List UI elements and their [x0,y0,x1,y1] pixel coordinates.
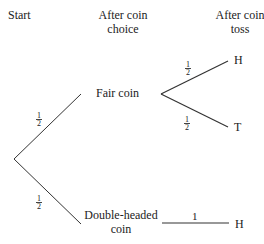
header-after-choice-line2: choice [95,22,151,36]
header-after-toss-line1: After coin [212,8,264,22]
branch-fair-tails [161,94,228,127]
node-fair-heads: H [234,53,243,67]
node-fair-coin: Fair coin [96,86,139,100]
branch-fair-heads [161,61,228,94]
node-double-line2: coin [82,222,160,236]
branch-start-double [14,159,81,224]
header-after-choice-line1: After coin [95,8,151,22]
prob-fair-tails: 12 [183,116,191,131]
node-double-headed-coin: Double-headed coin [82,208,160,236]
node-fair-tails: T [234,120,241,134]
node-double-heads: H [235,217,244,231]
prob-double-branch: 12 [35,195,43,210]
prob-double-heads: 1 [192,209,198,223]
header-after-choice: After coin choice [95,8,151,36]
header-after-toss-line2: toss [212,22,264,36]
header-start: Start [8,8,31,22]
header-after-toss: After coin toss [212,8,264,36]
node-double-line1: Double-headed [82,208,160,222]
branch-start-fair [14,94,81,159]
prob-fair-branch: 12 [35,112,43,127]
prob-fair-heads: 12 [184,61,192,76]
